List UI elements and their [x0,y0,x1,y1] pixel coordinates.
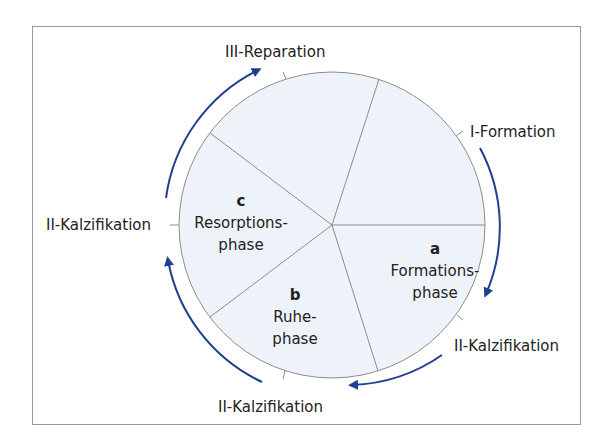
segment-label: phase [412,284,457,302]
segment-label: Resorptions- [194,214,288,232]
label-top: III-Reparation [225,43,325,61]
label-left: II-Kalzifikation [46,216,151,234]
label-bottom: II-Kalzifikation [218,398,323,416]
segment-label: Formations- [391,262,480,280]
label-bottom-right: II-Kalzifikation [454,337,559,355]
segment-label: Ruhe- [273,308,316,326]
segment-b: b Ruhe- phase [260,284,330,350]
label-top-right: I-Formation [470,123,556,141]
segment-a: a Formations- phase [380,238,490,304]
segment-letter: a [380,238,490,260]
segment-label: phase [272,330,317,348]
segment-letter: b [260,284,330,306]
segment-c: c Resorptions- phase [182,190,300,256]
segment-label: phase [218,236,263,254]
segment-letter: c [182,190,300,212]
